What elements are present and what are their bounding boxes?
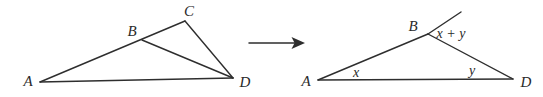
geometry-diagram-canvas: A B C D A B D x y x + y <box>0 0 543 97</box>
exterior-angle-theorem-diagram: A B C D A B D x y x + y <box>0 0 543 97</box>
right-angle-label-y: y <box>467 63 476 78</box>
right-line-a-to-d <box>318 79 513 80</box>
right-line-a-to-b <box>318 34 428 80</box>
left-line-a-to-d <box>40 78 233 82</box>
left-vertex-label-a: A <box>22 73 33 89</box>
transform-arrow <box>249 37 305 49</box>
left-line-b-to-d <box>142 40 233 78</box>
left-vertex-label-d: D <box>239 74 251 90</box>
left-figure: A B C D <box>22 3 250 90</box>
right-vertex-label-b: B <box>408 18 417 34</box>
right-vertex-label-d: D <box>520 74 532 90</box>
left-vertex-label-b: B <box>127 23 136 39</box>
right-vertex-label-a: A <box>300 73 311 89</box>
left-vertex-label-c: C <box>184 3 195 19</box>
right-angle-label-x: x <box>352 65 360 80</box>
left-line-a-to-c <box>40 21 185 82</box>
right-figure: A B D x y x + y <box>300 12 531 90</box>
right-angle-label-x-plus-y: x + y <box>436 26 467 41</box>
left-line-c-to-d <box>185 21 233 78</box>
